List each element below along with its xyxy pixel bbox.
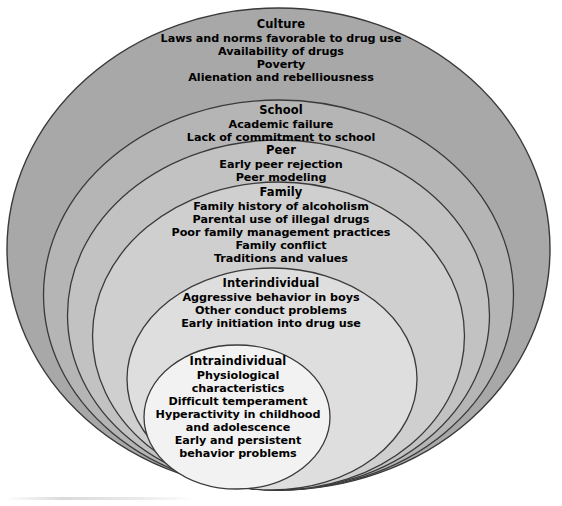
layer-label-intraindividual: Intraindividual Physiological characteri… — [152, 355, 324, 460]
layer-item: Alienation and rebelliousness — [131, 71, 431, 84]
layer-label-school: School Academic failure Lack of commitme… — [156, 104, 406, 144]
layer-item: Difficult temperament — [152, 395, 324, 408]
scan-artifact — [6, 497, 196, 500]
layer-item: Early peer rejection — [166, 158, 396, 171]
layer-title-interindividual: Interindividual — [146, 277, 396, 290]
layer-item: Physiological characteristics — [152, 369, 324, 395]
layer-item: Traditions and values — [151, 252, 411, 265]
layer-items-family: Family history of alcoholism Parental us… — [151, 200, 411, 265]
layer-item: Early and persistent behavior problems — [152, 434, 324, 460]
layer-item: Family conflict — [151, 239, 411, 252]
layer-label-interindividual: Interindividual Aggressive behavior in b… — [146, 277, 396, 330]
layer-items-peer: Early peer rejection Peer modeling — [166, 158, 396, 184]
layer-item: Hyperactivity in childhood and adolescen… — [152, 408, 324, 434]
layer-item: Academic failure — [156, 118, 406, 131]
layer-item: Poor family management practices — [151, 226, 411, 239]
layer-items-school: Academic failure Lack of commitment to s… — [156, 118, 406, 144]
layer-title-culture: Culture — [131, 18, 431, 31]
layer-label-family: Family Family history of alcoholism Pare… — [151, 186, 411, 265]
layer-title-school: School — [156, 104, 406, 117]
layer-item: Availability of drugs — [131, 45, 431, 58]
nested-ellipse-diagram: Culture Laws and norms favorable to drug… — [0, 0, 562, 506]
layer-title-intraindividual: Intraindividual — [152, 355, 324, 368]
layer-item: Early initiation into drug use — [146, 317, 396, 330]
layer-items-interindividual: Aggressive behavior in boys Other conduc… — [146, 291, 396, 330]
layer-item: Family history of alcoholism — [151, 200, 411, 213]
layer-title-family: Family — [151, 186, 411, 199]
layer-item: Aggressive behavior in boys — [146, 291, 396, 304]
layer-item: Poverty — [131, 58, 431, 71]
layer-item: Laws and norms favorable to drug use — [131, 32, 431, 45]
layer-item: Other conduct problems — [146, 304, 396, 317]
layer-title-peer: Peer — [166, 144, 396, 157]
layer-item: Parental use of illegal drugs — [151, 213, 411, 226]
layer-label-culture: Culture Laws and norms favorable to drug… — [131, 18, 431, 84]
layer-items-culture: Laws and norms favorable to drug use Ava… — [131, 32, 431, 84]
layer-label-peer: Peer Early peer rejection Peer modeling — [166, 144, 396, 184]
layer-items-intraindividual: Physiological characteristics Difficult … — [152, 369, 324, 460]
layer-item: Peer modeling — [166, 171, 396, 184]
